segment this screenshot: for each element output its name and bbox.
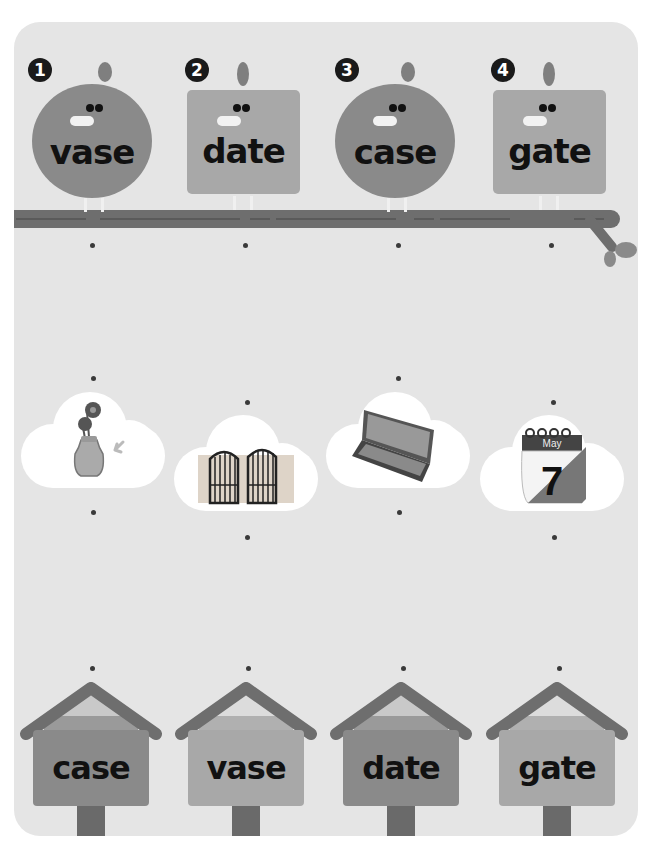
house-post [543,806,571,836]
match-dot[interactable] [549,243,554,248]
match-dot[interactable] [245,400,250,405]
match-dot[interactable] [551,400,556,405]
match-dot[interactable] [396,376,401,381]
bird-word-case[interactable]: case [335,62,455,222]
vase-with-flowers-icon [21,392,165,492]
house-post [387,806,415,836]
house-word-case[interactable]: case [16,682,166,846]
house-word-label: case [33,730,149,806]
bird-word-label: date [202,131,285,171]
house-word-label: date [343,730,459,806]
bird-word-vase[interactable]: vase [32,62,152,222]
house-post [232,806,260,836]
bird-legs-icon [387,198,407,212]
bird-legs-icon [539,196,559,210]
bird-beak-icon [217,116,241,126]
match-dot[interactable] [245,535,250,540]
house-word-vase[interactable]: vase [171,682,321,846]
bird-word-label: gate [508,131,591,171]
calendar-month: May [543,438,562,449]
bird-beak-icon [523,116,547,126]
picture-cloud-gate[interactable] [174,415,318,515]
bird-legs-icon [233,196,253,210]
match-dot[interactable] [396,243,401,248]
match-dot[interactable] [246,666,251,671]
branch-twig-icon [580,215,640,275]
house-word-label: gate [499,730,615,806]
picture-cloud-case[interactable] [326,392,470,492]
house-word-date[interactable]: date [326,682,476,846]
calendar-icon: May 7 [480,415,624,515]
house-word-gate[interactable]: gate [482,682,632,846]
house-post [77,806,105,836]
match-dot[interactable] [243,243,248,248]
match-dot[interactable] [90,243,95,248]
bird-tuft-icon [98,62,112,82]
bird-word-label: case [354,132,436,172]
house-word-label: vase [188,730,304,806]
match-dot[interactable] [90,666,95,671]
picture-cloud-date[interactable]: May 7 [480,415,624,515]
bird-word-date[interactable]: date [187,62,300,222]
pencil-case-icon [326,392,470,492]
match-dot[interactable] [91,376,96,381]
match-dot[interactable] [557,666,562,671]
match-dot[interactable] [91,510,96,515]
bird-beak-icon [70,116,94,126]
bird-legs-icon [84,198,104,212]
iron-gate-icon [174,415,318,515]
bird-tuft-icon [237,62,249,86]
bird-word-label: vase [50,132,134,172]
match-dot[interactable] [397,510,402,515]
bird-tuft-icon [401,62,415,82]
bird-word-gate[interactable]: gate [493,62,606,222]
bird-tuft-icon [543,62,555,86]
picture-cloud-vase[interactable] [21,392,165,492]
match-dot[interactable] [552,535,557,540]
bird-beak-icon [373,116,397,126]
calendar-day: 7 [541,459,563,503]
match-dot[interactable] [401,666,406,671]
